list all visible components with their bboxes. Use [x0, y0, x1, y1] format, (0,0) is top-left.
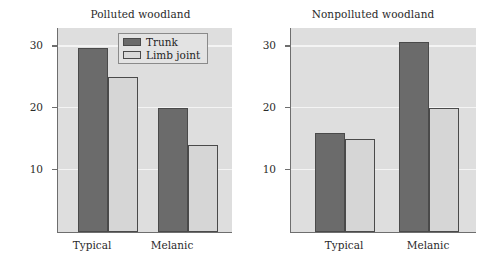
y-tick-10: 10 [52, 169, 58, 170]
panel-title-polluted: Polluted woodland [0, 8, 263, 20]
y-tick-20: 20 [285, 107, 291, 108]
x-category-label-melanic: Melanic [407, 239, 450, 251]
legend-swatch-trunk-icon [123, 38, 141, 46]
panel-nonpolluted-woodland: Nonpolluted woodland 10 20 30 Typical Me… [245, 0, 489, 265]
bar-polluted-melanic-trunk [158, 108, 188, 232]
bar-polluted-melanic-limb-joint [188, 145, 218, 232]
y-tick-label-30: 30 [30, 39, 43, 51]
bar-nonpolluted-melanic-trunk [399, 42, 429, 232]
panel-title-nonpolluted: Nonpolluted woodland [245, 8, 489, 20]
legend-entry-limb-joint: Limb joint [123, 50, 200, 61]
y-tick-30: 30 [52, 45, 58, 46]
legend: Trunk Limb joint [118, 33, 208, 64]
plot-area-nonpolluted: 10 20 30 [290, 28, 476, 233]
x-category-label-typical: Typical [73, 239, 112, 251]
legend-label-trunk: Trunk [146, 37, 178, 48]
bar-polluted-typical-trunk [78, 48, 108, 232]
figure-two-panel-bar-chart: Polluted woodland Number eaten (of 50 pr… [0, 0, 489, 265]
y-tick-20: 20 [52, 107, 58, 108]
panel-polluted-woodland: Polluted woodland Number eaten (of 50 pr… [0, 0, 245, 265]
bar-nonpolluted-typical-trunk [315, 133, 345, 232]
y-tick-30: 30 [285, 45, 291, 46]
y-tick-label-30: 30 [263, 39, 276, 51]
legend-swatch-limb-joint-icon [123, 51, 141, 59]
bar-polluted-typical-limb-joint [108, 77, 138, 232]
bar-nonpolluted-melanic-limb-joint [429, 108, 459, 232]
x-category-label-melanic: Melanic [151, 239, 194, 251]
y-tick-10: 10 [285, 169, 291, 170]
y-tick-label-10: 10 [30, 163, 43, 175]
legend-entry-trunk: Trunk [123, 37, 200, 48]
y-tick-label-20: 20 [30, 101, 43, 113]
y-tick-label-10: 10 [263, 163, 276, 175]
gridline-30 [291, 45, 476, 46]
legend-label-limb-joint: Limb joint [146, 50, 200, 61]
y-tick-label-20: 20 [263, 101, 276, 113]
x-category-label-typical: Typical [325, 239, 364, 251]
bar-nonpolluted-typical-limb-joint [345, 139, 375, 232]
